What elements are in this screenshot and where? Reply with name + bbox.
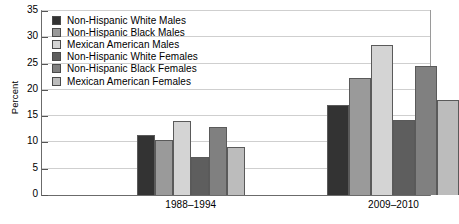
bar[interactable] [437, 100, 459, 195]
bar-slot [415, 11, 437, 195]
y-tick-label-0: 0 [12, 188, 38, 199]
bar[interactable] [227, 147, 245, 195]
y-tick-mark-5 [42, 169, 48, 170]
legend-item[interactable]: Non-Hispanic Black Females [52, 63, 198, 75]
x-axis-label-1: 1988–1994 [146, 199, 236, 210]
y-tick-mark-30 [42, 37, 48, 38]
bar[interactable] [393, 120, 415, 195]
y-tick-mark-35 [42, 11, 48, 12]
bar-slot [327, 11, 349, 195]
legend-label: Non-Hispanic Black Males [67, 27, 185, 38]
x-axis-label-2: 2009–2010 [349, 199, 439, 210]
bar-slot [393, 11, 415, 195]
y-tick-label-5: 5 [12, 162, 38, 173]
legend-label: Non-Hispanic White Females [67, 51, 198, 62]
y-tick-mark-10 [42, 142, 48, 143]
y-axis-title: Percent [9, 63, 20, 133]
bar-group [327, 11, 459, 195]
legend-label: Non-Hispanic Black Females [67, 63, 197, 74]
legend-item[interactable]: Non-Hispanic White Females [52, 51, 198, 63]
legend: Non-Hispanic White MalesNon-Hispanic Bla… [52, 14, 198, 87]
bar[interactable] [191, 157, 209, 195]
legend-swatch-icon [52, 77, 61, 86]
bar-slot [227, 11, 245, 195]
legend-swatch-icon [52, 64, 61, 73]
bar[interactable] [173, 121, 191, 195]
y-tick-mark-15 [42, 116, 48, 117]
bar-slot [437, 11, 459, 195]
y-tick-label-30: 30 [12, 30, 38, 41]
y-tick-mark-25 [42, 64, 48, 65]
legend-label: Mexican American Females [67, 76, 191, 87]
bar-slot [209, 11, 227, 195]
bar[interactable] [137, 135, 155, 195]
legend-swatch-icon [52, 40, 61, 49]
bar[interactable] [155, 140, 173, 195]
bar-slot [349, 11, 371, 195]
legend-item[interactable]: Mexican American Females [52, 75, 198, 87]
legend-swatch-icon [52, 52, 61, 61]
bar[interactable] [415, 66, 437, 195]
legend-item[interactable]: Non-Hispanic Black Males [52, 26, 198, 38]
legend-label: Non-Hispanic White Males [67, 15, 186, 26]
legend-item[interactable]: Mexican American Males [52, 38, 198, 50]
bar[interactable] [349, 78, 371, 195]
legend-item[interactable]: Non-Hispanic White Males [52, 14, 198, 26]
legend-label: Mexican American Males [67, 39, 179, 50]
y-tick-label-10: 10 [12, 135, 38, 146]
y-tick-label-20: 20 [12, 83, 38, 94]
y-tick-mark-0 [42, 195, 48, 196]
bar[interactable] [209, 127, 227, 195]
legend-swatch-icon [52, 16, 61, 25]
y-tick-mark-20 [42, 90, 48, 91]
legend-swatch-icon [52, 28, 61, 37]
y-tick-label-35: 35 [12, 4, 38, 15]
bar[interactable] [371, 45, 393, 195]
bar-slot [371, 11, 393, 195]
y-tick-label-15: 15 [12, 109, 38, 120]
bar[interactable] [327, 105, 349, 195]
y-tick-label-25: 25 [12, 57, 38, 68]
